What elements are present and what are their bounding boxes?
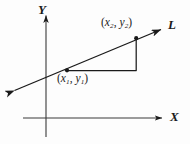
- point-2-label: (x2, y2): [101, 17, 132, 30]
- point-1-y-var: y: [75, 72, 80, 84]
- point-1-label: (x1, y1): [57, 73, 88, 86]
- y-axis-label: Y: [38, 3, 46, 16]
- point-2-close-paren: ): [128, 16, 132, 28]
- line-slope-figure: Y X L (x2, y2) (x1, y1): [0, 0, 190, 144]
- point-2-marker: [134, 36, 138, 40]
- line-l-label: L: [168, 18, 176, 31]
- point-2-y-var: y: [119, 16, 124, 28]
- x-axis-label: X: [170, 110, 179, 123]
- figure-canvas: [0, 0, 190, 144]
- point-1-close-paren: ): [84, 72, 88, 84]
